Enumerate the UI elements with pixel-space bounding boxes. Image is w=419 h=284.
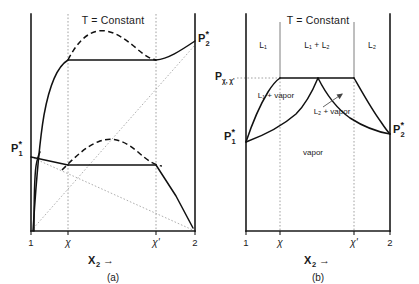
svg-text:P: P — [393, 123, 400, 135]
panel-a-x-axis-label: X 2 → — [88, 254, 114, 269]
panel-a-xtick-2: 2 — [192, 237, 197, 248]
svg-text:P: P — [224, 130, 231, 142]
svg-text:P: P — [11, 142, 18, 154]
lower-right-liquidus-line — [156, 165, 193, 228]
svg-text:*: * — [401, 120, 405, 130]
svg-text:X: X — [304, 254, 312, 266]
panel-b-p1-star-label: P 1 * — [224, 127, 236, 146]
svg-text:P: P — [198, 32, 205, 44]
panel-b-xtick-chi-prime: χ' — [349, 237, 358, 248]
svg-text:*: * — [232, 127, 236, 137]
panel-b: T = Constant L₁ L₁ + L₂ L₂ P χ, χ' P 1 *… — [210, 0, 419, 284]
panel-b-x-axis-label: X 2 → — [304, 254, 330, 269]
panel-b-p2-star-label: P 2 * — [393, 120, 405, 139]
upper-metastable-dashed-curve — [68, 31, 156, 60]
left-dew-curve — [246, 78, 318, 142]
panel-b-pxx-label: P χ, χ' — [215, 70, 235, 85]
svg-text:*: * — [19, 139, 23, 149]
svg-text:2: 2 — [96, 260, 100, 269]
left-bubble-curve — [246, 78, 280, 142]
lower-steep-solid-segment — [34, 152, 40, 231]
right-bubble-curve — [354, 78, 390, 134]
inner-label-l2-vapor: L₂ + vapor — [314, 107, 351, 116]
svg-text:P: P — [215, 70, 222, 82]
dew-curve-pointer-arrow — [323, 94, 343, 108]
svg-text:*: * — [206, 29, 210, 39]
panel-b-svg: T = Constant L₁ L₁ + L₂ L₂ P χ, χ' P 1 *… — [210, 0, 419, 284]
region-label-l1: L₁ — [259, 40, 267, 50]
upper-right-liquidus-curve — [156, 41, 195, 60]
panel-a: T = Constant P 2 * P 1 * 1 χ χ' 2 X 2 — [0, 0, 210, 284]
panel-a-xtick-chi-prime: χ' — [151, 237, 160, 248]
svg-text:2: 2 — [312, 260, 316, 269]
panel-a-svg: T = Constant P 2 * P 1 * 1 χ χ' 2 X 2 — [0, 0, 210, 284]
inner-label-vapor: vapor — [303, 148, 323, 157]
svg-text:→: → — [319, 254, 330, 266]
panel-a-caption: (a) — [107, 272, 119, 283]
svg-text:→: → — [103, 254, 114, 266]
panel-a-xtick-chi: χ — [64, 237, 71, 248]
region-label-l2: L₂ — [368, 40, 376, 50]
raoult-diagonal-down — [31, 157, 195, 231]
upper-left-liquidus-curve — [33, 60, 68, 231]
svg-text:1: 1 — [232, 137, 236, 146]
inner-label-l1-vapor: L₁ + vapor — [258, 91, 295, 100]
panel-b-title: T = Constant — [287, 14, 350, 26]
panel-a-title: T = Constant — [82, 14, 145, 26]
svg-text:X: X — [88, 254, 96, 266]
panel-a-p2-star-label: P 2 * — [198, 29, 210, 48]
region-label-l1-l2: L₁ + L₂ — [304, 40, 329, 50]
svg-text:χ, χ': χ, χ' — [222, 77, 235, 85]
panel-b-xtick-chi: χ — [276, 237, 283, 248]
two-panel-phase-diagram-figure: T = Constant P 2 * P 1 * 1 χ χ' 2 X 2 — [0, 0, 419, 284]
panel-b-xtick-1: 1 — [243, 237, 248, 248]
panel-a-p1-star-label: P 1 * — [11, 139, 23, 158]
svg-text:1: 1 — [19, 149, 23, 158]
panel-a-xtick-1: 1 — [28, 237, 33, 248]
svg-text:2: 2 — [401, 130, 405, 139]
raoult-diagonal-up — [31, 45, 195, 231]
panel-b-xtick-2: 2 — [387, 237, 392, 248]
panel-b-caption: (b) — [312, 272, 324, 283]
